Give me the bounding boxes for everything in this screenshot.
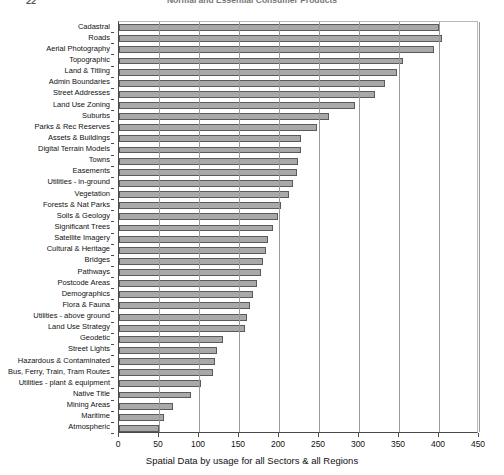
x-axis-tick-label: 150 [218, 439, 258, 449]
bar [119, 347, 217, 354]
bar [119, 380, 201, 387]
category-tick [111, 155, 114, 156]
page-header-strip: 22 Normal and Essential Consumer Product… [0, 0, 504, 9]
category-label: Forests & Nat Parks [43, 201, 110, 209]
category-label: Significant Trees [55, 223, 110, 231]
category-label: Satellite Imagery [54, 234, 110, 242]
category-label: Vegetation [75, 190, 110, 198]
gridline [199, 22, 200, 432]
x-axis-tick-label: 100 [178, 439, 218, 449]
category-tick [111, 333, 114, 334]
category-tick [111, 311, 114, 312]
category-tick [111, 110, 114, 111]
bar [119, 58, 403, 65]
x-axis-tick-label: 300 [338, 439, 378, 449]
category-label: Bridges [85, 256, 110, 264]
bar [119, 336, 223, 343]
category-tick [111, 166, 114, 167]
category-label: Digital Terrain Models [38, 145, 110, 153]
bar [119, 113, 329, 120]
x-axis-tick-label: 50 [138, 439, 178, 449]
bar-chart: CadastralRoadsAerial PhotographyTopograp… [0, 9, 504, 475]
bar [119, 158, 298, 165]
category-tick [111, 221, 114, 222]
bar [119, 280, 257, 287]
gridline [239, 22, 240, 432]
gridline [319, 22, 320, 432]
category-label: Atmospheric [68, 423, 110, 431]
plot-area [118, 21, 478, 433]
category-label: Hazardous & Contaminated [18, 357, 110, 365]
category-tick [111, 322, 114, 323]
bar [119, 414, 164, 421]
bar [119, 314, 247, 321]
x-axis-tick [118, 433, 119, 437]
category-tick [111, 88, 114, 89]
category-tick [111, 66, 114, 67]
gridline [479, 22, 480, 432]
category-label: Demographics [62, 290, 110, 298]
bar [119, 202, 281, 209]
category-tick [111, 422, 114, 423]
category-label: Native Title [73, 390, 110, 398]
x-axis-tick-label: 350 [378, 439, 418, 449]
category-label: Topographic [69, 56, 110, 64]
category-tick [111, 377, 114, 378]
x-axis-tick-label: 0 [98, 439, 138, 449]
gridline [359, 22, 360, 432]
category-label: Maritime [81, 412, 110, 420]
category-label: Postcode Areas [57, 279, 110, 287]
bar [119, 392, 191, 399]
x-axis-tick [358, 433, 359, 437]
category-label: Bus, Ferry, Train, Tram Routes [8, 368, 110, 376]
category-label: Parks & Rec Reserves [35, 123, 110, 131]
category-tick [111, 233, 114, 234]
category-tick [111, 43, 114, 44]
bar [119, 236, 268, 243]
bar-series [119, 22, 477, 432]
category-tick [111, 299, 114, 300]
x-axis-tick-label: 400 [418, 439, 458, 449]
category-label: Aerial Photography [46, 45, 110, 53]
category-label: Land Use Zoning [53, 101, 110, 109]
category-tick [111, 188, 114, 189]
category-label: Easements [72, 167, 110, 175]
bar [119, 69, 397, 76]
x-axis-tick [438, 433, 439, 437]
x-axis-tick [198, 433, 199, 437]
category-label: Assets & Buildings [48, 134, 110, 142]
x-axis-tick [158, 433, 159, 437]
bar [119, 225, 273, 232]
category-tick [111, 244, 114, 245]
bar [119, 169, 297, 176]
category-tick [111, 121, 114, 122]
category-tick [111, 288, 114, 289]
category-label: Street Addresses [53, 89, 110, 97]
chart-title: Normal and Essential Consumer Products [0, 0, 504, 5]
value-axis-labels: 050100150200250300350400450 [0, 439, 504, 453]
bar [119, 91, 375, 98]
category-label: Land & Titling [65, 67, 110, 75]
bar [119, 35, 442, 42]
category-tick [111, 143, 114, 144]
x-axis-title: Spatial Data by usage for all Sectors & … [0, 455, 504, 466]
bar [119, 358, 215, 365]
category-tick [111, 366, 114, 367]
category-tick [111, 32, 114, 33]
bar [119, 247, 266, 254]
x-axis-tick [318, 433, 319, 437]
bar [119, 425, 159, 432]
category-label: Flora & Fauna [62, 301, 110, 309]
category-label: Geodetic [80, 334, 110, 342]
bar [119, 135, 301, 142]
category-tick [111, 177, 114, 178]
category-label: Cadastral [78, 23, 110, 31]
category-tick [111, 277, 114, 278]
category-label: Utilities - plant & equipment [19, 379, 110, 387]
bar [119, 325, 245, 332]
category-tick [111, 344, 114, 345]
x-axis-tick [398, 433, 399, 437]
category-label: Mining Areas [67, 401, 110, 409]
category-label: Roads [88, 34, 110, 42]
category-label: Street Lights [68, 345, 110, 353]
